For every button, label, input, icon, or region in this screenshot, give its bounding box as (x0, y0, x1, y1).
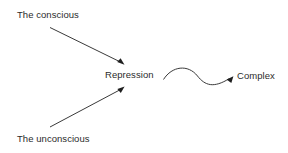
arrowhead-repression-to-complex (227, 76, 234, 83)
node-label-repression: Repression (105, 69, 154, 80)
edge-unconscious-to-repression (50, 87, 125, 128)
arrowhead-conscious-to-repression (117, 58, 124, 65)
edge-line-unconscious-to-repression (50, 89, 122, 127)
node-label-complex: Complex (237, 70, 275, 81)
edge-curve-repression-to-complex (164, 68, 230, 85)
arrowhead-unconscious-to-repression (117, 87, 124, 94)
edge-conscious-to-repression (50, 28, 125, 65)
node-label-unconscious: The unconscious (17, 133, 90, 144)
edge-repression-to-complex (164, 68, 234, 85)
diagram-canvas: The conscious The unconscious Repression… (0, 0, 288, 153)
node-label-conscious: The conscious (17, 9, 79, 20)
edge-line-conscious-to-repression (50, 28, 122, 63)
